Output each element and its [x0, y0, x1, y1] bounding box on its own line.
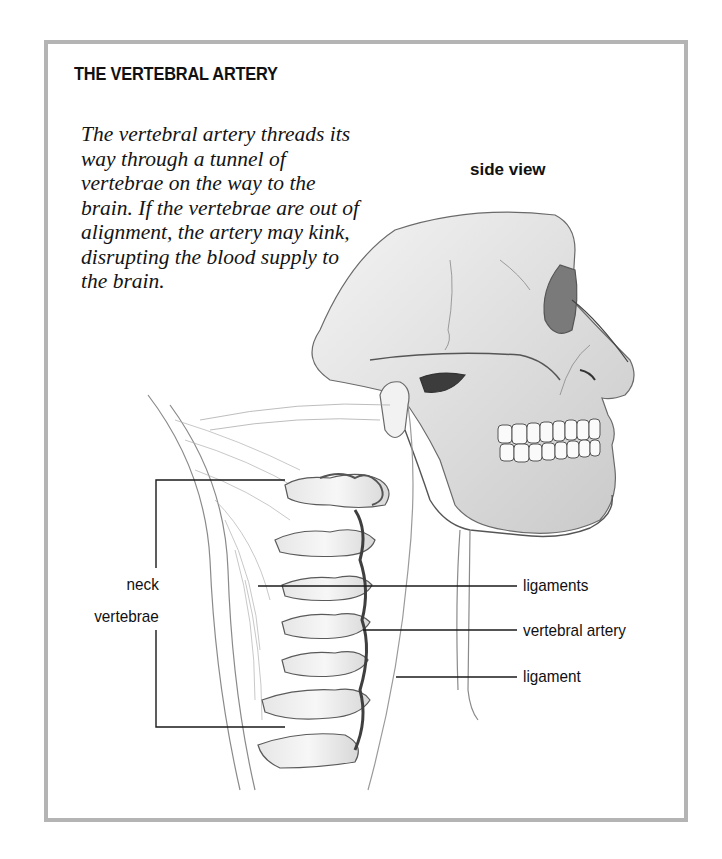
label-vertebrae: vertebrae [94, 607, 159, 627]
label-neck: neck [127, 575, 159, 595]
label-vertebral-artery: vertebral artery [523, 621, 626, 641]
teeth-icon [498, 419, 600, 462]
vertebrae-icon [258, 474, 389, 768]
label-ligament: ligament [523, 667, 581, 687]
label-ligaments: ligaments [523, 576, 588, 596]
ligament-fibers-icon [175, 404, 390, 720]
bracket-top-line [156, 480, 285, 568]
skull-neck-illustration [0, 0, 722, 859]
